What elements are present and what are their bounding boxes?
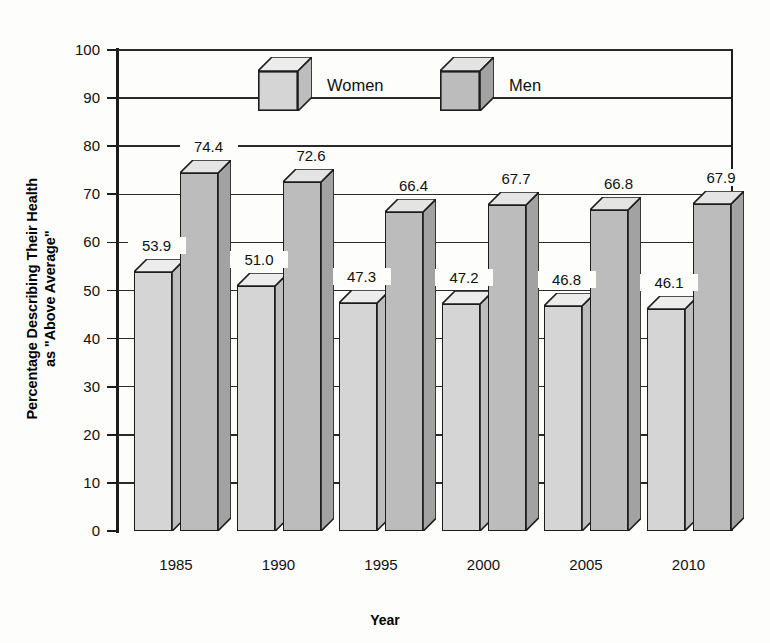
- bar-men-1990: [283, 169, 334, 531]
- legend-label-women: Women: [323, 76, 388, 95]
- y-tick-mark: [107, 49, 118, 51]
- bar-front-face: [442, 304, 480, 531]
- y-tick-label: 0: [54, 522, 100, 539]
- bar-women-2000: [442, 291, 493, 531]
- chart-figure: Percentage Describing Their Health as "A…: [0, 0, 770, 643]
- x-tick-label-2010: 2010: [649, 556, 729, 573]
- bar-front-face: [693, 204, 731, 531]
- bar-top-face: [544, 293, 595, 308]
- bar-top-face: [590, 197, 641, 212]
- y-tick-mark: [107, 338, 118, 340]
- bar-front-face: [283, 182, 321, 531]
- y-tick-label: 20: [54, 426, 100, 443]
- value-label-women-1985: 53.9: [128, 237, 186, 254]
- bar-side-outline: [628, 197, 641, 531]
- bar-top-face: [237, 273, 288, 288]
- bar-women-1990: [237, 273, 288, 531]
- y-tick-label: 30: [54, 378, 100, 395]
- bar-front-face: [134, 272, 172, 531]
- bar-top-face: [442, 291, 493, 306]
- y-tick-label: 70: [54, 185, 100, 202]
- bar-men-2000: [488, 192, 539, 531]
- value-label-women-1990: 51.0: [230, 251, 288, 268]
- bar-side-outline: [218, 160, 231, 531]
- value-label-men-2005: 66.8: [590, 175, 648, 192]
- y-tick-label: 80: [54, 137, 100, 154]
- bar-top-face: [488, 192, 539, 207]
- bar-front-face: [339, 303, 377, 531]
- bar-top-face: [647, 296, 698, 311]
- value-label-women-1995: 47.3: [333, 268, 391, 285]
- bar-women-2005: [544, 293, 595, 531]
- x-tick-label-1985: 1985: [136, 556, 216, 573]
- x-tick-label-1990: 1990: [239, 556, 319, 573]
- bar-top-face: [134, 259, 185, 274]
- bar-top-face: [339, 290, 390, 305]
- bar-side-outline: [321, 169, 334, 531]
- bar-side-outline: [423, 199, 436, 531]
- bar-front-face: [590, 210, 628, 531]
- y-tick-mark: [107, 482, 118, 484]
- bar-men-2010: [693, 191, 744, 531]
- bar-front-face: [544, 306, 582, 531]
- value-label-women-2000: 47.2: [435, 269, 493, 286]
- y-tick-mark: [107, 434, 118, 436]
- bar-top-face: [385, 199, 436, 214]
- y-tick-label: 50: [54, 282, 100, 299]
- value-label-men-2000: 67.7: [487, 170, 545, 187]
- bar-men-2005: [590, 197, 641, 531]
- bar-side-outline: [526, 192, 539, 531]
- x-tick-label-1995: 1995: [341, 556, 421, 573]
- bar-women-1995: [339, 290, 390, 531]
- value-label-men-1990: 72.6: [282, 147, 340, 164]
- value-label-women-2005: 46.8: [538, 271, 596, 288]
- bar-top-face: [283, 169, 334, 184]
- value-label-women-2010: 46.1: [640, 274, 698, 291]
- bar-top-face: [693, 191, 744, 206]
- y-tick-label: 40: [54, 330, 100, 347]
- legend-swatch-men: [440, 57, 494, 111]
- gridline: [118, 49, 733, 51]
- y-tick-mark: [107, 386, 118, 388]
- bar-women-1985: [134, 259, 185, 531]
- bar-men-1985: [180, 160, 231, 531]
- bar-front-face: [180, 173, 218, 531]
- y-tick-mark: [107, 290, 118, 292]
- legend-swatch-women: [258, 57, 312, 111]
- x-axis-title: Year: [0, 612, 770, 628]
- y-tick-mark: [107, 242, 118, 244]
- y-tick-mark: [107, 145, 118, 147]
- bar-top-face: [180, 160, 231, 175]
- bar-front-face: [385, 212, 423, 531]
- legend-label-men: Men: [505, 76, 545, 95]
- y-tick-mark: [107, 193, 118, 195]
- y-tick-label: 100: [54, 41, 100, 58]
- bar-front-face: [237, 286, 275, 531]
- x-tick-label-2000: 2000: [444, 556, 524, 573]
- y-tick-label: 10: [54, 474, 100, 491]
- bar-side-outline: [731, 191, 744, 531]
- gridline: [118, 97, 733, 99]
- value-label-men-1985: 74.4: [180, 138, 238, 155]
- y-tick-mark: [107, 97, 118, 99]
- y-tick-label: 60: [54, 233, 100, 250]
- bar-front-face: [647, 309, 685, 531]
- bar-front-face: [488, 205, 526, 531]
- y-tick-label: 90: [54, 89, 100, 106]
- bar-men-1995: [385, 199, 436, 531]
- y-tick-mark: [107, 530, 118, 532]
- value-label-men-1995: 66.4: [385, 177, 443, 194]
- value-label-men-2010: 67.9: [692, 169, 750, 186]
- x-tick-label-2005: 2005: [546, 556, 626, 573]
- bar-women-2010: [647, 296, 698, 531]
